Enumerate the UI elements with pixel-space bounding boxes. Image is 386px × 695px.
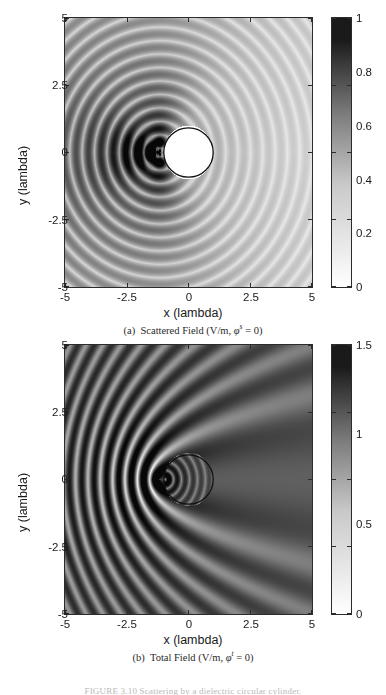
colorbar-tick-label: 0.5 bbox=[356, 518, 372, 530]
x-axis-title: x (lambda) bbox=[0, 633, 386, 647]
axis-tick bbox=[250, 345, 251, 349]
x-tick-label: 2.5 bbox=[243, 291, 259, 303]
colorbar-tick bbox=[347, 152, 351, 153]
panel-total-field: 5 2.5 0 -2.5 -5 -5 -2.5 0 2.5 5 x (lambd… bbox=[0, 327, 386, 667]
subcaption-text: Total Field (V/m, bbox=[150, 652, 226, 663]
subcaption-tag: (b) bbox=[132, 652, 144, 663]
axis-tick bbox=[308, 479, 312, 480]
axis-tick bbox=[308, 286, 312, 287]
axis-tick bbox=[188, 345, 189, 349]
colorbar-tick-label: 1 bbox=[356, 12, 362, 24]
y-tick-label: 0 bbox=[62, 146, 68, 158]
colorbar-tick bbox=[332, 219, 336, 220]
scattering-field-figure: 5 2.5 0 -2.5 -5 -5 -2.5 0 2.5 5 x (lambd… bbox=[0, 0, 386, 695]
heatmap-total-field bbox=[65, 345, 312, 614]
colorbar-tick-label: 0.6 bbox=[356, 120, 372, 132]
colorbar-tick bbox=[347, 85, 351, 86]
colorbar-tick bbox=[347, 613, 351, 614]
y-tick-label: -2.5 bbox=[48, 541, 68, 553]
colorbar-tick-label: 0 bbox=[356, 608, 362, 620]
colorbar-tick-label: 0.8 bbox=[356, 66, 372, 78]
x-tick-label: -2.5 bbox=[117, 291, 137, 303]
subcaption-b: (b) Total Field (V/m, φt = 0) bbox=[0, 649, 386, 663]
x-tick-label: -2.5 bbox=[117, 618, 137, 630]
axis-tick bbox=[250, 610, 251, 614]
colorbar-scattered-field bbox=[331, 17, 352, 288]
colorbar-tick bbox=[332, 345, 336, 346]
y-tick-label: -2.5 bbox=[48, 214, 68, 226]
x-tick-label: 5 bbox=[309, 618, 315, 630]
colorbar-tick bbox=[332, 152, 336, 153]
axis-tick bbox=[308, 219, 312, 220]
colorbar-tick-label: 1.5 bbox=[356, 339, 372, 351]
plot-area-total-field bbox=[64, 344, 313, 615]
axis-tick bbox=[308, 85, 312, 86]
axis-tick bbox=[188, 18, 189, 22]
colorbar-tick bbox=[332, 613, 336, 614]
colorbar-tick bbox=[332, 412, 336, 413]
y-tick-label: 2.5 bbox=[52, 406, 68, 418]
axis-tick bbox=[127, 283, 128, 287]
axis-tick bbox=[250, 18, 251, 22]
axis-tick bbox=[311, 345, 312, 349]
x-tick-label: 2.5 bbox=[243, 618, 259, 630]
axis-tick bbox=[127, 610, 128, 614]
y-tick-label: 0 bbox=[62, 473, 68, 485]
plot-area-scattered-field bbox=[64, 17, 313, 288]
colorbar-tick bbox=[347, 412, 351, 413]
x-tick-label: 0 bbox=[186, 618, 192, 630]
colorbar-tick bbox=[332, 18, 336, 19]
panel-scattered-field: 5 2.5 0 -2.5 -5 -5 -2.5 0 2.5 5 x (lambd… bbox=[0, 0, 386, 340]
colorbar-tick bbox=[332, 479, 336, 480]
axis-tick bbox=[308, 613, 312, 614]
colorbar-tick bbox=[347, 18, 351, 19]
colorbar-tick-label: 1 bbox=[356, 428, 362, 440]
colorbar-tick bbox=[332, 85, 336, 86]
colorbar-tick bbox=[347, 345, 351, 346]
y-tick-label: 5 bbox=[62, 12, 68, 24]
y-axis-title: y (lambda) bbox=[16, 146, 30, 205]
y-tick-label: 2.5 bbox=[52, 79, 68, 91]
colorbar-tick-label: 0.4 bbox=[356, 174, 372, 186]
y-tick-label: 5 bbox=[62, 339, 68, 351]
x-tick-label: -5 bbox=[60, 291, 70, 303]
colorbar-tick-label: 0.2 bbox=[356, 227, 372, 239]
x-tick-label: -5 bbox=[60, 618, 70, 630]
colorbar-tick bbox=[347, 219, 351, 220]
axis-tick bbox=[250, 283, 251, 287]
colorbar-tick bbox=[332, 546, 336, 547]
x-axis-title: x (lambda) bbox=[0, 306, 386, 320]
axis-tick bbox=[188, 610, 189, 614]
heatmap-scattered-field bbox=[65, 18, 312, 287]
colorbar-total-field bbox=[331, 344, 352, 615]
axis-tick bbox=[308, 546, 312, 547]
x-tick-label: 0 bbox=[186, 291, 192, 303]
x-tick-label: 5 bbox=[309, 291, 315, 303]
colorbar-tick bbox=[347, 286, 351, 287]
colorbar-tick bbox=[332, 286, 336, 287]
axis-tick bbox=[308, 152, 312, 153]
colorbar-tick bbox=[347, 546, 351, 547]
y-axis-title: y (lambda) bbox=[16, 473, 30, 532]
axis-tick bbox=[127, 18, 128, 22]
colorbar-tick-label: 0 bbox=[356, 281, 362, 293]
axis-tick bbox=[127, 345, 128, 349]
subcaption-tail: = 0) bbox=[234, 652, 254, 663]
colorbar-tick bbox=[347, 479, 351, 480]
axis-tick bbox=[311, 18, 312, 22]
axis-tick bbox=[308, 412, 312, 413]
axis-tick bbox=[188, 283, 189, 287]
figure-caption: FIGURE 3.10 Scattering by a dielectric c… bbox=[0, 686, 386, 695]
